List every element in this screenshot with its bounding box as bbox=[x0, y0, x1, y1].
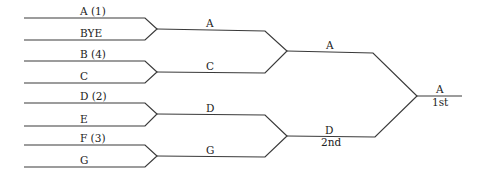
seed-label: G bbox=[80, 154, 88, 166]
winner-label: G bbox=[206, 144, 214, 156]
final-match: A D 2nd bbox=[287, 39, 417, 148]
seed-label: BYE bbox=[80, 27, 102, 39]
round1-match-2: B (4) C bbox=[24, 48, 157, 83]
seed-label: A (1) bbox=[79, 5, 106, 17]
round1-match-1: A (1) BYE bbox=[24, 5, 157, 40]
place-label: 1st bbox=[432, 96, 449, 108]
place-label: 2nd bbox=[321, 136, 341, 148]
winner-label: C bbox=[206, 60, 214, 72]
champion-label: A bbox=[435, 83, 444, 95]
tournament-bracket: A (1) BYE B (4) C D (2) E F (3) G A C D … bbox=[0, 0, 483, 177]
winner-label: A bbox=[205, 17, 214, 29]
seed-label: B (4) bbox=[80, 48, 106, 60]
round2-match-2: D G bbox=[157, 102, 287, 157]
finalist-label: A bbox=[325, 39, 334, 51]
round1-match-4: F (3) G bbox=[24, 132, 157, 167]
seed-label: C bbox=[80, 70, 88, 82]
finalist-label: D bbox=[325, 124, 333, 136]
champion: A 1st bbox=[417, 83, 462, 108]
round1-match-3: D (2) E bbox=[24, 90, 157, 126]
seed-label: E bbox=[80, 113, 88, 125]
seed-label: D (2) bbox=[80, 90, 107, 102]
round2-match-1: A C bbox=[157, 17, 287, 73]
winner-label: D bbox=[206, 102, 214, 114]
seed-label: F (3) bbox=[80, 132, 106, 144]
